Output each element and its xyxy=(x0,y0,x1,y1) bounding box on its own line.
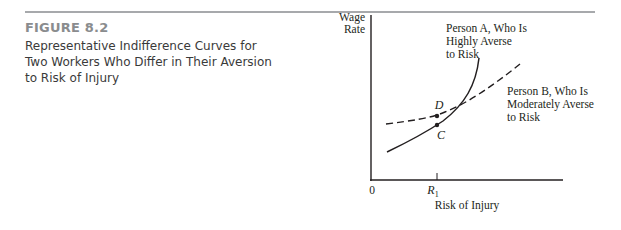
point-c-label: C xyxy=(437,128,446,142)
x-tick-r1-sub: 1 xyxy=(435,190,439,199)
indifference-chart: Wage Rate 0 R1 Risk of Injury D C Person… xyxy=(0,0,621,230)
curve-person-a xyxy=(387,58,479,152)
person-a-label-line2: Highly Averse xyxy=(446,35,512,48)
person-b-label-line3: to Risk xyxy=(507,111,540,123)
person-b-label-line1: Person B, Who Is xyxy=(507,85,588,98)
x-tick-zero: 0 xyxy=(369,184,375,196)
person-a-label-line1: Person A, Who Is xyxy=(446,22,527,35)
point-d-label: D xyxy=(434,98,444,112)
curve-person-b xyxy=(386,64,520,124)
person-b-label-line2: Moderately Averse xyxy=(507,98,594,111)
point-d xyxy=(435,114,439,118)
x-axis-label: Risk of Injury xyxy=(435,199,500,212)
person-a-label-line3: to Risk xyxy=(446,48,479,60)
x-tick-r1: R1 xyxy=(426,183,438,199)
y-axis-label-line2: Rate xyxy=(344,23,365,35)
point-c xyxy=(435,123,439,127)
